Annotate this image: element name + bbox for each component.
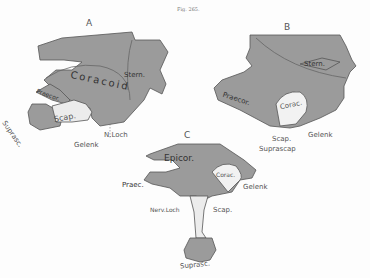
panel-b-letter: B (284, 22, 290, 32)
panel-c-drawing (144, 144, 256, 262)
label-scap-c: Scap. (213, 207, 232, 214)
label-stern-a: Stern. (124, 72, 145, 79)
panel-b-drawing (214, 35, 356, 128)
label-praec: Praec. (122, 182, 144, 189)
label-suprascap: Suprascap (259, 146, 296, 153)
label-gelenk-b: Gelenk (308, 132, 332, 139)
label-corac-c: Corac. (216, 172, 235, 178)
label-epicor: Epicor. (164, 154, 194, 163)
label-scap-b: Scap. (272, 136, 291, 143)
label-gelenk-c: Gelenk (243, 184, 267, 191)
label-stern-b: Stern. (304, 61, 325, 68)
panel-c-letter: C (184, 130, 190, 140)
label-n-loch: N.Loch (104, 132, 128, 139)
label-gelenk-a: Gelenk (74, 142, 98, 149)
label-nerv-loch: Nerv.Loch (150, 207, 180, 213)
panel-a-letter: A (86, 18, 92, 28)
figure-caption: Fig. 265. (177, 6, 200, 12)
figure-canvas: Fig. 265. A Coracoid Stern. Praecor. Sca… (0, 0, 370, 278)
